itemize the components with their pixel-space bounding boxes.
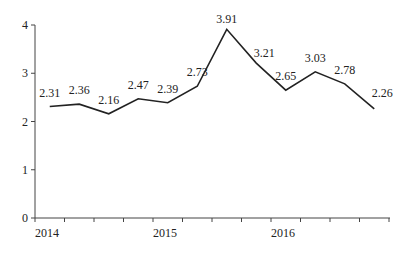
data-label: 2.78 [334, 63, 355, 77]
axes [35, 25, 390, 218]
data-label: 3.21 [254, 46, 275, 60]
x-tick-label: 2015 [153, 226, 177, 240]
data-label: 3.91 [216, 12, 237, 26]
data-labels: 2.312.362.162.472.392.733.913.212.653.03… [39, 12, 393, 106]
data-label: 2.36 [69, 83, 90, 97]
x-tick-label: 2016 [271, 226, 295, 240]
y-tick-label: 4 [22, 18, 28, 32]
data-label: 3.03 [305, 51, 326, 65]
data-label: 2.16 [98, 93, 119, 107]
y-tick-label: 0 [22, 211, 28, 225]
y-axis-ticks: 01234 [22, 18, 35, 225]
y-tick-label: 3 [22, 66, 28, 80]
line-chart: 01234 201420152016 2.312.362.162.472.392… [0, 0, 408, 261]
y-tick-label: 2 [22, 115, 28, 129]
x-axis-ticks: 201420152016 [35, 218, 389, 240]
data-label: 2.26 [372, 86, 393, 100]
data-label: 2.47 [128, 78, 149, 92]
data-label: 2.31 [39, 86, 60, 100]
data-label: 2.73 [187, 65, 208, 79]
data-label: 2.39 [157, 82, 178, 96]
y-tick-label: 1 [22, 163, 28, 177]
x-tick-label: 2014 [35, 226, 59, 240]
data-label: 2.65 [275, 69, 296, 83]
